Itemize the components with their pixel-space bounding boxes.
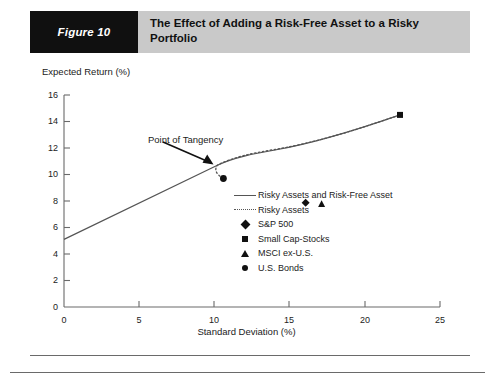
marker-small-cap-stocks [397, 112, 403, 118]
legend-label: MSCI ex-U.S. [258, 248, 313, 258]
square-marker-icon [232, 236, 258, 242]
series-risky-assets [216, 115, 400, 179]
legend-item-msci-ex-us: MSCI ex-U.S. [232, 246, 393, 261]
figure-container: Figure 10 The Effect of Adding a Risk-Fr… [0, 0, 493, 388]
legend-label: S&P 500 [258, 219, 293, 229]
chart-plot-area: Expected Return (%) Standard Deviation (… [0, 58, 493, 343]
figure-number-badge: Figure 10 [30, 11, 138, 53]
figure-bottom-rule-outer [10, 372, 485, 373]
diamond-marker-icon [232, 221, 258, 228]
triangle-marker-icon [232, 250, 258, 257]
figure-title: The Effect of Adding a Risk-Free Asset t… [150, 16, 460, 45]
chart-legend: Risky Assets and Risk-Free Asset Risky A… [232, 188, 393, 275]
legend-label: Risky Assets [258, 205, 309, 215]
marker-us-bonds [220, 175, 227, 182]
solid-line-icon [232, 195, 258, 196]
legend-item-small-cap-stocks: Small Cap-Stocks [232, 232, 393, 247]
figure-bottom-rule-inner [30, 355, 470, 356]
x-axis-ticks [139, 301, 440, 307]
point-of-tangency-arrow [163, 142, 214, 165]
circle-marker-icon [232, 265, 258, 272]
legend-label: Small Cap-Stocks [258, 234, 330, 244]
legend-item-risky-assets: Risky Assets [232, 203, 393, 218]
dotted-line-icon [232, 209, 258, 210]
figure-number-label: Figure 10 [58, 26, 111, 38]
legend-item-us-bonds: U.S. Bonds [232, 261, 393, 276]
legend-label: U.S. Bonds [258, 263, 304, 273]
legend-label: Risky Assets and Risk-Free Asset [258, 190, 393, 200]
legend-item-sp500: S&P 500 [232, 217, 393, 232]
y-axis-ticks [64, 95, 70, 281]
legend-item-risky-and-riskfree: Risky Assets and Risk-Free Asset [232, 188, 393, 203]
